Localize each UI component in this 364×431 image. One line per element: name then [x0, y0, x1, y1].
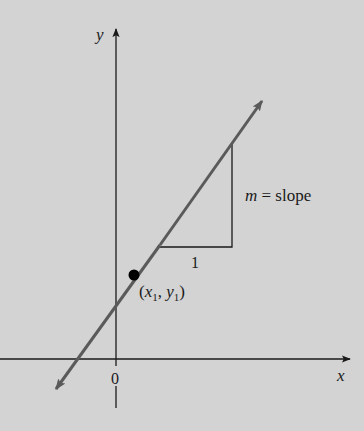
diagram-canvas: y x 0 1 m = slope (x1, y1)	[0, 0, 364, 431]
x-axis-label: x	[336, 366, 345, 385]
origin-label: 0	[111, 370, 119, 387]
slope-label: m = slope	[245, 186, 311, 205]
line-lower	[56, 245, 160, 389]
line	[160, 101, 262, 245]
point-label: (x1, y1)	[139, 282, 185, 303]
point-marker	[129, 270, 140, 281]
run-label: 1	[191, 254, 199, 271]
y-axis-label: y	[94, 25, 104, 44]
